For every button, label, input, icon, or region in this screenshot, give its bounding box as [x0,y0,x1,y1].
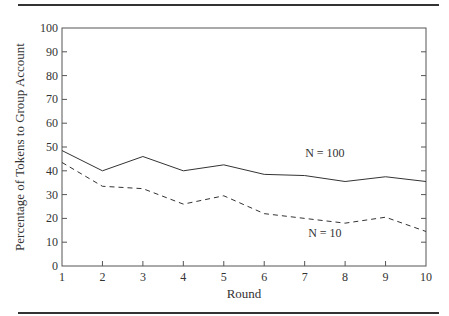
y-tick-label: 10 [46,235,58,249]
x-tick-label: 3 [140,270,146,284]
x-tick-label: 6 [261,270,267,284]
y-tick-label: 40 [46,164,58,178]
y-tick-label: 30 [46,188,58,202]
x-tick-label: 1 [59,270,65,284]
x-tick-label: 5 [221,270,227,284]
y-tick-label: 50 [46,140,58,154]
y-tick-label: 100 [40,21,58,35]
y-tick-label: 60 [46,116,58,130]
x-tick-label: 9 [383,270,389,284]
series-annotation: N = 100 [305,146,344,160]
y-tick-label: 0 [52,259,58,273]
series-line-n100 [62,151,426,182]
series-group [62,151,426,232]
x-tick-label: 10 [420,270,432,284]
plot-frame [62,28,426,266]
y-tick-label: 70 [46,92,58,106]
x-axis-label: Round [227,286,262,301]
y-tick-label: 80 [46,69,58,83]
y-axis-label: Percentage of Tokens to Group Account [12,43,27,251]
line-chart: 010203040506070809010012345678910 N = 10… [0,0,449,316]
x-tick-label: 2 [99,270,105,284]
axes: 010203040506070809010012345678910 [40,21,432,284]
labels-group: N = 100N = 10 [305,146,344,241]
series-line-n10 [62,162,426,231]
x-tick-label: 8 [342,270,348,284]
x-tick-label: 7 [302,270,308,284]
y-tick-label: 20 [46,211,58,225]
x-tick-label: 4 [180,270,186,284]
series-annotation: N = 10 [308,226,341,240]
y-tick-label: 90 [46,45,58,59]
